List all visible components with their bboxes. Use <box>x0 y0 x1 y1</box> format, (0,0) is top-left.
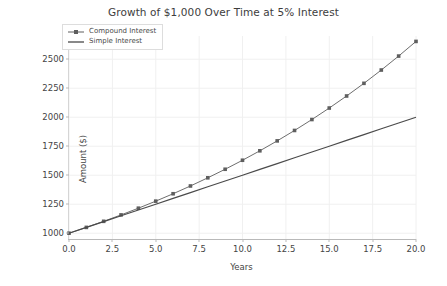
x-tick-mark <box>285 239 286 242</box>
data-point-marker <box>327 106 331 110</box>
legend-entry[interactable]: Simple Interest <box>67 37 156 46</box>
y-tick-mark <box>66 117 69 118</box>
y-tick-label: 1750 <box>42 141 64 151</box>
plot-area: 1000125015001750200022502500 0.02.55.07.… <box>68 36 416 240</box>
legend-swatch-compound <box>67 28 85 36</box>
x-tick-mark <box>199 239 200 242</box>
series-line <box>69 41 416 233</box>
y-tick-label: 1500 <box>42 170 64 180</box>
y-tick-label: 1000 <box>42 228 64 238</box>
legend-label: Simple Interest <box>89 37 142 46</box>
x-tick-label: 12.5 <box>276 244 295 254</box>
x-axis-label: Years <box>68 262 415 272</box>
data-point-marker <box>223 167 227 171</box>
x-tick-mark <box>155 239 156 242</box>
chart-legend: Compound InterestSimple Interest <box>62 24 163 50</box>
legend-label: Compound Interest <box>89 27 156 36</box>
legend-entry[interactable]: Compound Interest <box>67 27 156 36</box>
x-tick-mark <box>372 239 373 242</box>
y-tick-label: 2000 <box>42 112 64 122</box>
x-tick-mark <box>69 239 70 242</box>
x-tick-label: 5.0 <box>149 244 163 254</box>
data-point-marker <box>310 118 314 122</box>
legend-swatch-simple <box>67 38 85 46</box>
y-tick-mark <box>66 88 69 89</box>
y-tick-label: 2250 <box>42 83 64 93</box>
data-point-marker <box>362 82 366 86</box>
data-point-marker <box>414 40 418 44</box>
x-tick-label: 10.0 <box>233 244 252 254</box>
x-tick-mark <box>416 239 417 242</box>
data-point-marker <box>293 129 297 133</box>
y-tick-mark <box>66 204 69 205</box>
x-tick-mark <box>242 239 243 242</box>
y-tick-mark <box>66 59 69 60</box>
y-tick-label: 1250 <box>42 199 64 209</box>
data-point-marker <box>380 68 384 72</box>
data-series-layer <box>69 36 416 239</box>
y-tick-label: 2500 <box>42 54 64 64</box>
chart-title: Growth of $1,000 Over Time at 5% Interes… <box>0 6 447 18</box>
data-point-marker <box>397 54 401 58</box>
y-tick-mark <box>66 175 69 176</box>
chart-figure: Growth of $1,000 Over Time at 5% Interes… <box>0 0 447 286</box>
y-tick-mark <box>66 233 69 234</box>
y-axis-label: Amount ($) <box>78 109 88 209</box>
x-tick-label: 20.0 <box>407 244 426 254</box>
data-point-marker <box>275 139 279 143</box>
series-line <box>69 117 416 233</box>
y-tick-mark <box>66 146 69 147</box>
x-tick-mark <box>112 239 113 242</box>
data-point-marker <box>345 94 349 98</box>
x-tick-label: 17.5 <box>363 244 382 254</box>
data-point-marker <box>171 192 175 196</box>
x-tick-mark <box>329 239 330 242</box>
data-point-marker <box>206 176 210 180</box>
x-tick-label: 0.0 <box>62 244 76 254</box>
data-point-marker <box>154 199 158 203</box>
x-tick-label: 15.0 <box>320 244 339 254</box>
x-tick-label: 7.5 <box>192 244 206 254</box>
data-point-marker <box>258 149 262 153</box>
data-point-marker <box>241 158 245 162</box>
x-tick-label: 2.5 <box>106 244 120 254</box>
data-point-marker <box>189 184 193 188</box>
